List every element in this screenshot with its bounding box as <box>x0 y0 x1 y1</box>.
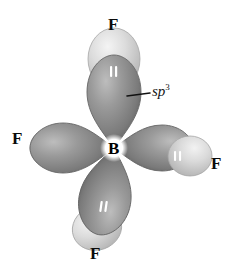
orbital-diagram-figure: F F F F B sp3 <box>0 0 232 279</box>
sp3-base-text: sp <box>152 83 165 99</box>
fluorine-label-top: F <box>108 16 118 33</box>
fluorine-label-bottom: F <box>90 245 100 262</box>
lobe-top-group <box>87 28 141 148</box>
fluorine-label-right: F <box>211 155 221 172</box>
sp3-hybrid-label: sp3 <box>152 83 170 99</box>
fluorine-label-left: F <box>12 130 22 147</box>
boron-center-label: B <box>108 140 119 157</box>
sp3-superscript: 3 <box>165 82 170 92</box>
